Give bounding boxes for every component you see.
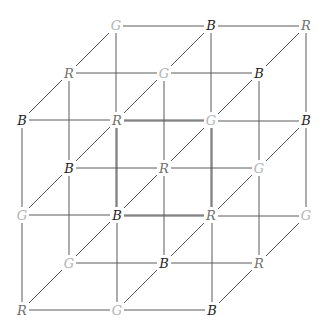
lattice-edge — [69, 121, 116, 168]
lattice-edge — [212, 73, 259, 120]
node-label-b: B — [206, 303, 217, 318]
node-label-g: G — [206, 113, 216, 128]
lattice-edge — [164, 26, 211, 73]
node-label-r: R — [63, 66, 74, 81]
node-label-r: R — [300, 18, 311, 33]
node-label-b: B — [205, 18, 216, 33]
node-label-g: G — [159, 66, 169, 81]
lattice-edge — [212, 168, 259, 215]
node-label-g: G — [64, 256, 74, 271]
node-label-r: R — [158, 161, 169, 176]
lattice-edge — [259, 26, 306, 73]
node-label-r: R — [16, 303, 27, 318]
lattice-edge — [22, 168, 69, 215]
lattice-edge — [117, 73, 164, 120]
lattice-edge — [259, 216, 306, 263]
lattice-edge — [117, 168, 164, 215]
lattice-edge — [164, 121, 211, 168]
node-label-g: G — [112, 303, 122, 318]
lattice-cube-diagram: GBRRGBBRGBBRGGBRGGBRRGB — [0, 0, 325, 332]
cube-lattice-svg: GBRRGBBRGBBRGGBRGGBRRGB — [0, 0, 325, 332]
node-label-b: B — [253, 66, 264, 81]
lattice-edge — [69, 26, 116, 73]
node-label-b: B — [111, 208, 122, 223]
node-label-b: B — [63, 161, 74, 176]
lattice-edge — [117, 263, 164, 310]
lattice-edge — [69, 216, 116, 263]
node-label-g: G — [17, 208, 27, 223]
node-label-r: R — [205, 208, 216, 223]
node-label-b: B — [300, 113, 311, 128]
lattice-edge — [22, 73, 69, 120]
node-label-g: G — [111, 18, 121, 33]
node-label-g: G — [301, 208, 311, 223]
node-label-r: R — [111, 113, 122, 128]
node-label-r: R — [253, 256, 264, 271]
lattice-edge — [259, 121, 306, 168]
lattice-edge — [22, 263, 69, 310]
lattice-edge — [212, 263, 259, 310]
node-label-b: B — [16, 113, 27, 128]
node-label-b: B — [158, 256, 169, 271]
node-label-g: G — [254, 161, 264, 176]
lattice-edge — [164, 216, 211, 263]
